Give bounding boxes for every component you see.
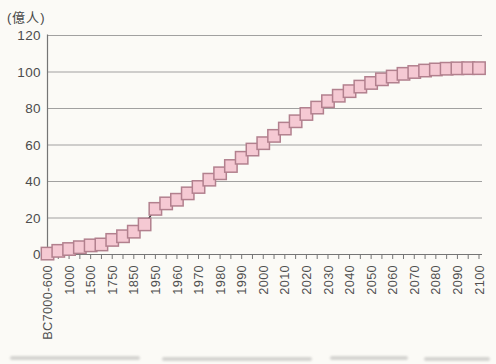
x-axis-label: 2100 (472, 265, 487, 295)
x-axis-label: 1980 (213, 265, 228, 295)
y-axis-label: 80 (25, 101, 41, 116)
population-line (48, 68, 480, 253)
x-axis-label: 1960 (170, 265, 185, 295)
x-axis-label: 2000 (256, 265, 271, 295)
y-axis-label: 20 (25, 211, 41, 226)
x-axis-label: 2040 (342, 265, 357, 295)
x-axis-label: 1990 (234, 265, 249, 295)
y-axis-label: 100 (17, 65, 41, 80)
x-axis-label: 1750 (105, 265, 120, 295)
x-axis-label: 1970 (191, 265, 206, 295)
x-axis-label: 2080 (428, 265, 443, 295)
x-axis-label: 1500 (83, 265, 98, 295)
x-axis-label: 1950 (148, 265, 163, 295)
y-axis-label: 0 (33, 247, 41, 262)
x-axis-label: 2090 (450, 265, 465, 295)
x-axis-label: BC7000-600 (40, 265, 55, 340)
data-point-marker (138, 218, 150, 230)
x-axis-label: 2060 (385, 265, 400, 295)
x-axis-label: 2030 (321, 265, 336, 295)
population-chart: (億人) BC7000-6001000150017501850195019601… (0, 0, 496, 364)
chart-plot-area: BC7000-600100015001750185019501960197019… (0, 0, 496, 364)
x-axis-label: 1000 (62, 265, 77, 295)
x-axis-label: 2070 (407, 265, 422, 295)
x-axis-label: 2020 (299, 265, 314, 295)
y-axis-label: 60 (25, 138, 41, 153)
y-axis-label: 40 (25, 174, 41, 189)
x-axis-label: 1850 (126, 265, 141, 295)
y-axis-label: 120 (17, 28, 41, 43)
data-point-marker (473, 62, 485, 74)
x-axis-label: 2050 (364, 265, 379, 295)
x-axis-label: 2010 (277, 265, 292, 295)
